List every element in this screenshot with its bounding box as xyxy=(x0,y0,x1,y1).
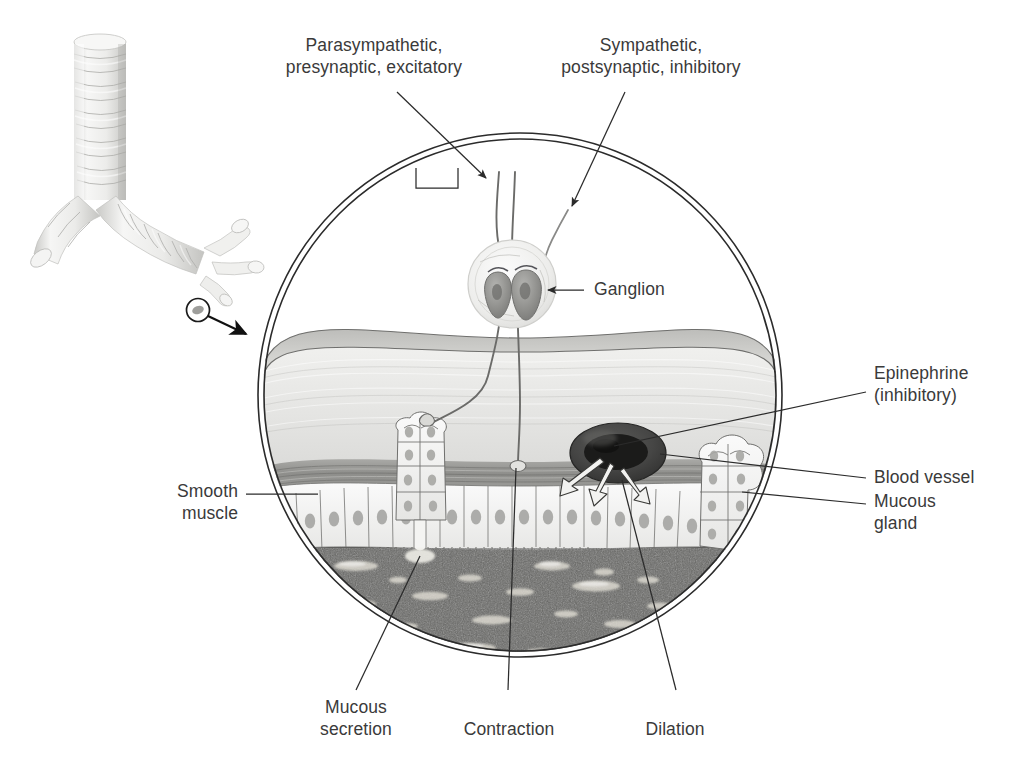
magnified-bronchiole-circle xyxy=(246,133,798,708)
label-ganglion: Ganglion xyxy=(594,278,734,300)
bronchial-tree-inset xyxy=(27,34,264,334)
label-contraction: Contraction xyxy=(436,718,582,740)
trachea-segment xyxy=(74,34,126,200)
label-dilation: Dilation xyxy=(614,718,736,740)
label-smooth-muscle: Smooth muscle xyxy=(86,480,238,525)
label-mucous-gland: Mucous gland xyxy=(874,490,1014,535)
label-parasympathetic: Parasympathetic, presynaptic, excitatory xyxy=(266,34,482,79)
label-blood-vessel: Blood vessel xyxy=(874,466,1024,488)
label-sympathetic: Sympathetic, postsynaptic, inhibitory xyxy=(540,34,762,79)
inset-target-marker xyxy=(187,299,210,322)
anatomy-figure: Parasympathetic, presynaptic, excitatory… xyxy=(0,0,1029,768)
label-epinephrine: Epinephrine (inhibitory) xyxy=(874,362,1024,407)
ganglion xyxy=(468,240,556,328)
airway-lumen xyxy=(246,547,798,708)
right-bronchus xyxy=(96,196,204,274)
bronchiole-branches xyxy=(200,216,265,308)
inset-pointer-arrow xyxy=(208,316,246,334)
label-mucous-secretion: Mucous secretion xyxy=(286,696,426,741)
left-bronchus xyxy=(27,196,100,271)
